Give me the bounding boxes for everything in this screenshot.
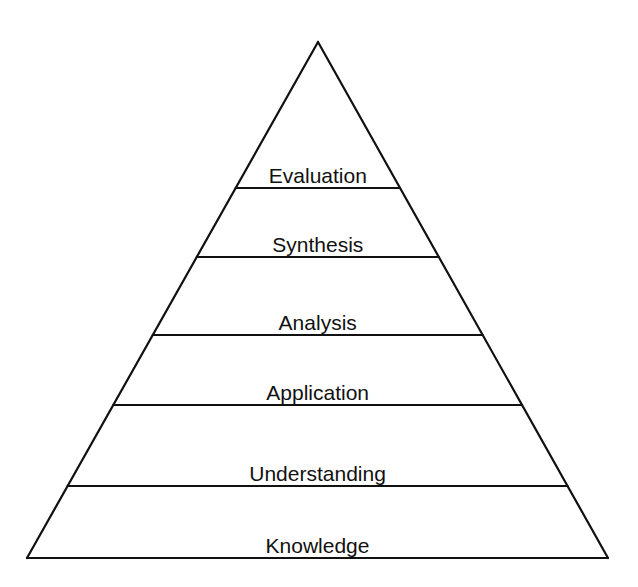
level-label-synthesis: Synthesis	[272, 233, 363, 256]
pyramid-svg: Evaluation Synthesis Analysis Applicatio…	[0, 0, 638, 587]
pyramid-labels: Evaluation Synthesis Analysis Applicatio…	[249, 164, 386, 557]
pyramid-diagram: Evaluation Synthesis Analysis Applicatio…	[0, 0, 638, 587]
level-label-evaluation: Evaluation	[269, 164, 367, 187]
level-label-knowledge: Knowledge	[266, 534, 370, 557]
level-label-application: Application	[266, 381, 369, 404]
level-label-analysis: Analysis	[279, 311, 357, 334]
level-label-understanding: Understanding	[249, 462, 386, 485]
